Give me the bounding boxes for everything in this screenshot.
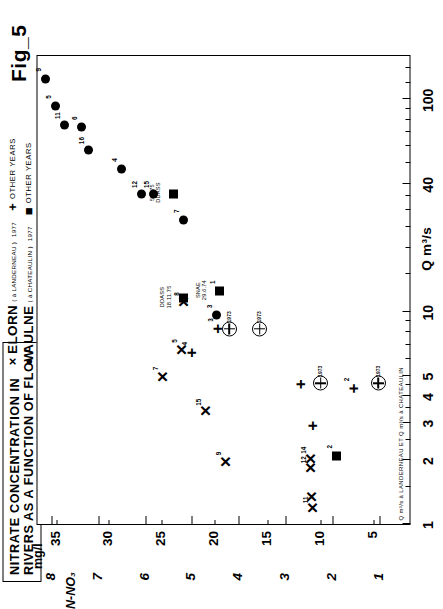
data-point: ✕ [305, 454, 314, 465]
x-axis-title: Q m³/s [418, 227, 433, 271]
x-axis-tick [405, 407, 410, 408]
data-point-label: 4 [111, 158, 118, 162]
square-marker-icon [178, 293, 187, 302]
cross-marker-icon: ✕ [200, 406, 209, 417]
data-point-annotation: SNAE29.6.74 [194, 280, 207, 300]
data-point: + [296, 378, 305, 390]
x-axis-tick-label: 100 [419, 89, 435, 112]
x-axis-tick [402, 183, 410, 184]
x-axis-tick [405, 486, 410, 487]
y-axis-label-mgl: 30 [100, 531, 115, 569]
data-point-label: 1973 [255, 311, 261, 322]
annotation-line: DDASS [158, 286, 165, 309]
x-axis-tick [405, 119, 410, 120]
square-marker-icon [214, 287, 223, 296]
y-axis-tick-nno3 [379, 516, 380, 525]
x-axis-tick [405, 67, 410, 68]
y-axis-tick-mgl [320, 520, 321, 525]
x-axis-footnote: Q m³/s à LANDERNEAU ET Q m³/s à CHATEAUL… [397, 367, 403, 521]
legend-name-elorn: ELORN [5, 305, 19, 354]
data-point [41, 74, 50, 83]
data-point-label: 3 [206, 305, 213, 309]
y-axis-label-nno3: 2 [323, 573, 338, 603]
annotation-line: 29.6.74 [201, 280, 208, 300]
data-point [214, 287, 223, 296]
data-point-label: 4 [181, 342, 188, 346]
data-point-label: 9 [35, 68, 42, 72]
y-axis-label-nno3: 8 [43, 573, 58, 603]
x-axis-tick [405, 226, 410, 227]
y-axis-tick-mgl [373, 520, 374, 525]
data-point: ✕ [305, 463, 314, 474]
circle-marker-icon [41, 74, 50, 83]
annotation-line: DDASS [155, 182, 162, 202]
x-axis-tick-label: 3 [419, 420, 435, 428]
data-point [76, 123, 85, 132]
x-axis-tick-label: 40 [419, 177, 435, 193]
circled-plus-marker-icon [313, 376, 328, 391]
data-point-annotation: DDASS18.11.75 [158, 286, 171, 309]
data-point: + [307, 420, 316, 432]
circled-plus-marker-icon [370, 376, 385, 391]
circle-marker-icon [136, 189, 145, 198]
data-point-label: 11 [54, 112, 61, 119]
y-axis-label-mgl: 10 [311, 531, 326, 569]
plus-marker-icon: + [348, 382, 357, 394]
data-point-label: 7 [152, 367, 159, 371]
square-marker-icon [332, 451, 341, 460]
cross-marker-icon: ✕ [221, 457, 230, 468]
y-axis-label-nno3: 6 [136, 573, 151, 603]
x-axis-tick [405, 331, 410, 332]
legend-row-elorn: × ELORN ( à LANDERNEAU ) 1977 + OTHER YE… [4, 138, 20, 368]
data-point [178, 293, 187, 302]
data-point [117, 164, 126, 173]
legend-year-aulne: 1977 [26, 226, 33, 241]
y-axis-label-nno3: 5 [183, 573, 198, 603]
cross-marker-icon: ✕ [305, 463, 314, 474]
data-point: + [187, 347, 196, 359]
data-point-annotation: 5.3.75DDASS [148, 182, 161, 202]
plus-marker-icon: + [213, 323, 222, 335]
x-axis-tick-label: 2 [419, 457, 435, 465]
x-axis-tick [405, 131, 410, 132]
legend-other-years-elorn: OTHER YEARS [8, 138, 16, 199]
data-point-label: 3 [207, 318, 214, 322]
y-axis-tick-mgl [108, 520, 109, 525]
data-point-label: 6 [70, 116, 77, 120]
x-axis-tick [405, 82, 410, 83]
data-point-label: 1973 [225, 311, 231, 322]
data-point [60, 120, 69, 129]
plus-marker-icon: + [307, 420, 316, 432]
legend-sub-aulne: ( à CHATEAULIN ) [26, 246, 33, 302]
y-axis-label-nno3: 4 [230, 573, 245, 603]
square-marker-icon [168, 189, 177, 198]
legend-year-elorn: 1977 [10, 222, 17, 237]
data-point-label: 2 [326, 445, 333, 449]
circle-marker-icon [84, 145, 93, 154]
data-point-label: 1973 [316, 366, 322, 377]
annotation-line: 5.3.75 [148, 182, 155, 202]
x-axis-tick [405, 247, 410, 248]
x-axis-tick [402, 98, 410, 99]
plot-area: 11596164121573✕7✕5✕8✕15✕9✕11✕✕12✕14+4+3+… [36, 55, 410, 525]
data-point-label: 16 [78, 137, 85, 144]
circled-plus-marker-icon [221, 321, 236, 336]
y-axis-label-mgl: 5 [364, 531, 379, 569]
data-point [332, 451, 341, 460]
x-axis-tick [405, 384, 410, 385]
chart-title-line2: RIVERS AS A FUNCTION OF FLOW [21, 349, 35, 575]
y-axis-tick-nno3 [191, 516, 192, 525]
x-axis-tick-label: 4 [419, 393, 435, 401]
circle-marker-icon [50, 102, 59, 111]
circle-marker-icon [117, 164, 126, 173]
legend-sub-elorn: ( à LANDERNEAU ) [10, 242, 17, 302]
data-point [178, 216, 187, 225]
y-axis-label-nno3: 3 [277, 573, 292, 603]
legend-name-aulne: AULNE [21, 306, 35, 355]
y-axis-unit-nno3: N-NO₃ [63, 572, 77, 609]
annotation-line: 18.11.75 [165, 286, 172, 309]
data-point-label: 7 [172, 209, 179, 213]
square-marker-icon: ■ [21, 203, 35, 219]
data-point-label: 2 [342, 378, 349, 382]
